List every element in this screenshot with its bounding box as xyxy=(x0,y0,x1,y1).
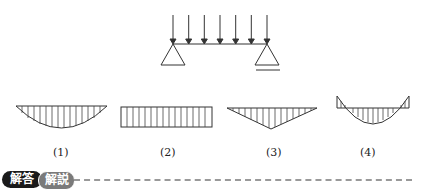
option-4-label: (4) xyxy=(360,146,376,159)
distributed-load-arrows xyxy=(170,15,270,44)
pin-support-icon xyxy=(161,44,185,65)
answer-badge: 解答 xyxy=(2,171,42,188)
roller-support-icon xyxy=(255,44,280,70)
option-2-label: (2) xyxy=(160,146,176,159)
option-3-diagram xyxy=(227,108,317,129)
option-2-diagram xyxy=(121,107,212,127)
option-1-diagram xyxy=(16,106,107,128)
option-4-diagram xyxy=(337,96,409,124)
option-1-label: (1) xyxy=(53,146,69,159)
dashed-divider xyxy=(74,179,412,181)
beam-diagram xyxy=(0,0,421,170)
option-3-label: (3) xyxy=(266,146,282,159)
explanation-badge: 解説 xyxy=(38,171,75,190)
